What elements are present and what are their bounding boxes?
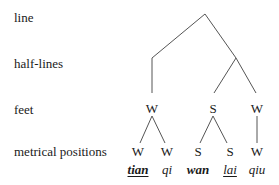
syllable-qiu: qiu xyxy=(249,163,266,177)
syllable-lai: lai xyxy=(223,163,237,177)
foot-node-2: S xyxy=(209,102,216,116)
branch-foot1-pos2 xyxy=(152,116,165,143)
syllable-wan: wan xyxy=(187,163,209,177)
position-node-4: S xyxy=(226,145,233,159)
branch-half-line-to-foot-3 xyxy=(236,58,256,93)
branch-line-to-half-lines xyxy=(152,14,236,93)
position-node-5: W xyxy=(251,145,263,159)
foot-node-3: W xyxy=(251,102,263,116)
syllable-qi: qi xyxy=(162,163,172,177)
syllable-tian: tian xyxy=(128,163,149,177)
branch-foot1-pos1 xyxy=(140,116,152,143)
position-node-3: S xyxy=(194,145,201,159)
branch-half-line-to-foot-2 xyxy=(214,58,236,93)
foot-node-1: W xyxy=(146,102,158,116)
position-node-2: W xyxy=(161,145,173,159)
branch-foot2-pos4 xyxy=(213,116,227,143)
position-node-1: W xyxy=(132,145,144,159)
branch-foot2-pos3 xyxy=(200,116,213,143)
